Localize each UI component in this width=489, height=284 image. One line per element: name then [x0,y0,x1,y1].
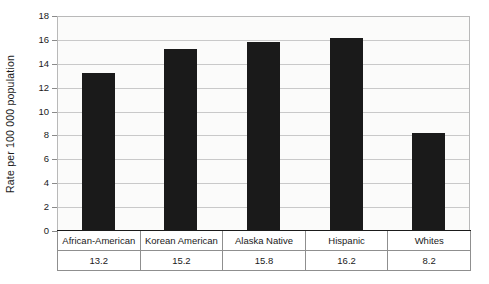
y-tick-label-8: 8 [28,130,49,140]
y-axis-title: Rate per 100 000 population [4,55,16,193]
y-tick-label-18: 18 [28,11,49,21]
y-axis-title-container: Rate per 100 000 population [0,16,20,231]
table-cell-category-1: Korean American [141,231,224,250]
y-tick-label-2: 2 [28,202,49,212]
y-tick-label-10: 10 [28,107,49,117]
table-row-values: 13.215.215.816.28.2 [58,251,470,270]
bars-container [57,16,470,231]
table-row-category-labels: African-AmericanKorean AmericanAlaska Na… [58,231,470,251]
table-cell-category-0: African-American [58,231,141,250]
y-tick-label-16: 16 [28,35,49,45]
table-cell-category-4: Whites [388,231,470,250]
caption-remnant [6,276,126,282]
data-table: African-AmericanKorean AmericanAlaska Na… [57,231,471,271]
y-tick-label-0: 0 [28,226,49,236]
y-tick-label-6: 6 [28,154,49,164]
y-tick-label-14: 14 [28,59,49,69]
bar-alaska-native [247,42,280,231]
table-cell-category-2: Alaska Native [223,231,306,250]
bar-hispanic [330,38,363,232]
table-cell-value-0: 13.2 [58,251,141,270]
table-cell-value-4: 8.2 [388,251,470,270]
table-cell-value-2: 15.8 [223,251,306,270]
table-cell-value-1: 15.2 [141,251,224,270]
bar-african-american [82,73,115,231]
table-cell-value-3: 16.2 [306,251,389,270]
bar-korean-american [164,49,197,231]
bar-whites [412,133,445,231]
y-tick-label-4: 4 [28,178,49,188]
y-tick-label-12: 12 [28,83,49,93]
table-cell-category-3: Hispanic [306,231,389,250]
bar-chart-figure: Rate per 100 000 population 181614121086… [0,0,489,284]
